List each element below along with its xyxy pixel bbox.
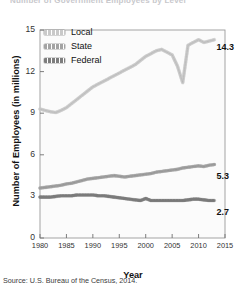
legend-label-federal: Federal [71,55,102,66]
y-tick-12: 12 [13,66,35,76]
y-tick-6: 6 [13,149,35,159]
legend: Local State Federal [44,26,128,68]
legend-swatch-federal [44,58,65,63]
end-label-state: 5.3 [216,171,229,181]
source-note: Source: U.S. Bureau of the Census, 2014. [3,276,137,285]
x-tick-2005: 2005 [159,241,185,250]
legend-item-local: Local [44,26,128,39]
x-tick-2010: 2010 [186,241,212,250]
y-tick-9: 9 [13,107,35,117]
x-tick-1985: 1985 [53,241,79,250]
x-tick-1980: 1980 [27,241,53,250]
x-tick-1990: 1990 [80,241,106,250]
x-tick-2000: 2000 [133,241,159,250]
chart-area: Number of Employees (in millions) Year 0… [0,8,238,258]
legend-item-state: State [44,40,128,53]
legend-item-federal: Federal [44,54,128,67]
x-tick-1995: 1995 [106,241,132,250]
y-tick-3: 3 [13,190,35,200]
legend-label-local: Local [71,27,93,38]
end-label-local: 14.3 [216,42,234,52]
y-tick-15: 15 [13,24,35,34]
end-label-federal: 2.7 [216,207,229,217]
figure-title: Number of Government Employees by Level [10,0,210,5]
legend-label-state: State [71,41,92,52]
legend-swatch-local [44,30,65,35]
legend-swatch-state [44,44,65,49]
x-tick-2015: 2015 [212,241,238,250]
figure-government-employees: Number of Government Employees by Level … [0,0,238,291]
